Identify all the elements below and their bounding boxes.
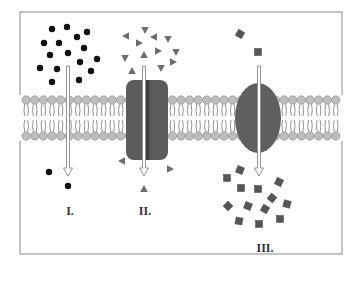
lipid-head [22, 96, 30, 104]
lipid-head [323, 96, 331, 104]
dot-particle [88, 68, 94, 74]
lipid-head [31, 96, 39, 104]
transport-labels: I. II. III. [66, 204, 273, 255]
lipid-head [314, 132, 322, 140]
label-III: III. [256, 241, 273, 255]
dot-particle [46, 169, 52, 175]
lipid-head [91, 132, 99, 140]
square-particle [267, 193, 277, 203]
lipid-head [280, 96, 288, 104]
lipid-head [220, 132, 228, 140]
triangle-particle [121, 55, 129, 62]
triangle-particle [141, 27, 149, 34]
lipid-head [211, 96, 219, 104]
lipid-head [297, 132, 305, 140]
triangle-particle [167, 165, 174, 173]
channel-protein [126, 80, 168, 160]
lipid-head [323, 132, 331, 140]
triangle-particle [172, 49, 180, 56]
dot-particle [49, 79, 55, 85]
square-particle [283, 200, 292, 209]
triangle-particle [164, 36, 172, 43]
lipid-head [211, 132, 219, 140]
lipid-head [108, 96, 116, 104]
lipid-head [194, 96, 202, 104]
square-particle [224, 175, 231, 182]
label-I: I. [66, 204, 74, 218]
lipid-head [289, 132, 297, 140]
dot-particle [65, 50, 71, 56]
lipid-head [228, 96, 236, 104]
triangle-particle [118, 157, 125, 165]
lipid-head [99, 132, 107, 140]
dot-particle [54, 66, 60, 72]
triangle-particle [157, 65, 165, 72]
lipid-head [108, 132, 116, 140]
lipid-head [22, 132, 30, 140]
lipid-head [48, 132, 56, 140]
lipid-head [228, 132, 236, 140]
lipid-head [56, 96, 64, 104]
triangle-particle [136, 39, 143, 47]
lipid-head [289, 96, 297, 104]
dot-particle [76, 77, 82, 83]
lipid-head [203, 96, 211, 104]
triangle-particle [155, 47, 162, 55]
triangle-particle [170, 58, 177, 66]
lipid-head [56, 132, 64, 140]
lipid-head [82, 132, 90, 140]
lipid-head [185, 96, 193, 104]
lipid-head [74, 132, 82, 140]
lipid-head [168, 132, 176, 140]
lipid-head [39, 132, 47, 140]
square-particle [255, 186, 262, 193]
square-particle [236, 166, 245, 175]
lipid-head [306, 132, 314, 140]
dot-particle [77, 59, 83, 65]
square-particle [244, 202, 253, 211]
dot-particle [84, 29, 90, 35]
square-particle [277, 216, 284, 223]
lipid-head [31, 132, 39, 140]
lipid-head [332, 96, 340, 104]
lipid-head [39, 96, 47, 104]
lipid-head [117, 132, 125, 140]
square-particle [235, 29, 245, 39]
square-particle [223, 201, 233, 211]
square-particle [256, 221, 263, 228]
lipid-head [314, 96, 322, 104]
label-II: II. [139, 204, 151, 218]
lipid-head [168, 96, 176, 104]
dot-particle [94, 56, 100, 62]
dot-particle [37, 65, 43, 71]
dot-particle [74, 34, 80, 40]
square-particle [255, 49, 262, 56]
lipid-head [91, 96, 99, 104]
dot-particle [81, 45, 87, 51]
lipid-head [220, 96, 228, 104]
triangle-particle [128, 67, 136, 74]
lipid-head [332, 132, 340, 140]
dot-particle [56, 40, 62, 46]
lipid-head [177, 96, 185, 104]
dot-particle [49, 26, 55, 32]
lipid-head [280, 132, 288, 140]
lipid-head [48, 96, 56, 104]
lipid-head [203, 132, 211, 140]
lipid-head [306, 96, 314, 104]
triangle-particle [150, 33, 157, 41]
lipid-head [99, 96, 107, 104]
dot-particle [47, 52, 53, 58]
lipid-head [297, 96, 305, 104]
diagram-canvas: I. II. III. [0, 0, 360, 281]
square-particle [260, 204, 270, 214]
lipid-head [117, 96, 125, 104]
dot-particle [65, 183, 71, 189]
lipid-head [177, 132, 185, 140]
lipid-head [82, 96, 90, 104]
membrane-transport-diagram: I. II. III. [0, 0, 360, 281]
square-particle [274, 177, 283, 186]
lipid-head [74, 96, 82, 104]
triangle-particle [140, 185, 148, 192]
dot-particle [64, 24, 70, 30]
